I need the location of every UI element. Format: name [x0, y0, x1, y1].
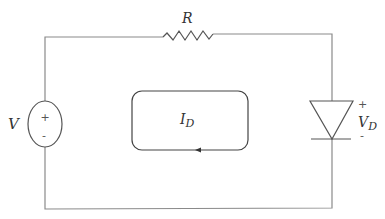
circuit-diagram: R + - V + VD - ID	[0, 0, 385, 219]
source-label: V	[8, 115, 21, 133]
diode: + VD -	[310, 98, 377, 142]
diode-voltage-subscript: D	[367, 120, 377, 133]
source-minus-sign: -	[42, 129, 46, 142]
diode-minus-sign: -	[360, 129, 364, 142]
loop-current: ID	[132, 91, 248, 153]
voltage-source: + - V	[8, 101, 62, 147]
loop-current-subscript: D	[185, 117, 195, 130]
resistor-label: R	[181, 10, 193, 26]
loop-current-label: ID	[179, 111, 195, 130]
source-plus-sign: +	[41, 111, 50, 124]
diode-triangle-icon	[310, 101, 353, 139]
resistor-zigzag-icon	[163, 31, 213, 40]
loop-arrow-icon	[195, 148, 201, 153]
resistor: R	[163, 10, 213, 40]
diode-plus-sign: +	[358, 98, 367, 111]
